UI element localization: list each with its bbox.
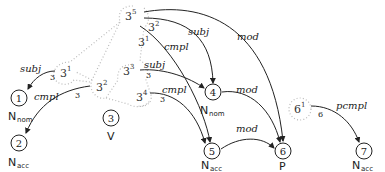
slot-3-5: 3 bbox=[125, 10, 132, 23]
valency-hull bbox=[54, 6, 311, 120]
node-7-case: acc bbox=[361, 165, 373, 172]
node-5-case: acc bbox=[210, 165, 222, 172]
slot-6-1-exp: 1 bbox=[301, 101, 305, 109]
node-7-category: N bbox=[352, 159, 360, 172]
node-4: 4 N nom bbox=[200, 84, 225, 118]
label-cmpl-mid: cmpl bbox=[162, 84, 187, 95]
top-slot-label-1: 3 bbox=[138, 36, 145, 49]
node-4-category: N bbox=[200, 104, 208, 117]
node-4-case: nom bbox=[209, 110, 225, 118]
top-slot-exp-1: 1 bbox=[145, 35, 149, 43]
node-1: 1 N nom bbox=[8, 90, 33, 124]
node-2: 2 N acc bbox=[8, 135, 29, 170]
edge-mod-5-6 bbox=[221, 139, 274, 149]
valency-slots: 3 5 3 1 3 2 3 3 3 4 6 1 bbox=[60, 8, 305, 116]
slot-6-1: 6 bbox=[294, 103, 301, 116]
slot-3-1: 3 bbox=[60, 67, 67, 80]
label-mod-4-6: mod bbox=[236, 84, 258, 95]
slot-3-4: 3 bbox=[136, 91, 143, 104]
slot-3-3-exp: 3 bbox=[130, 63, 134, 71]
edge-mod-top bbox=[144, 10, 283, 141]
node-5: 5 N acc bbox=[201, 143, 222, 172]
slot-3-5-exp: 5 bbox=[132, 8, 136, 16]
node-2-category: N bbox=[8, 156, 16, 169]
slot-3-1-exp: 1 bbox=[67, 65, 71, 73]
top-slot-label-2: 3 bbox=[148, 21, 155, 34]
label-mod-5-6: mod bbox=[236, 123, 258, 134]
node-7: 7 N acc bbox=[352, 143, 373, 172]
num-cmpl-left: 3 bbox=[75, 91, 80, 100]
dependency-diagram: subj 3 cmpl 3 3 2 3 1 subj cmpl mod subj… bbox=[0, 0, 385, 172]
svg-text:5: 5 bbox=[209, 146, 215, 157]
node-1-category: N bbox=[8, 110, 16, 123]
num-subj-left: 3 bbox=[50, 73, 55, 82]
slot-3-4-exp: 4 bbox=[143, 89, 148, 97]
num-cmpl-mid: 3 bbox=[160, 95, 165, 104]
node-2-case: acc bbox=[17, 162, 29, 170]
slot-3-3: 3 bbox=[123, 65, 130, 78]
label-cmpl-top: cmpl bbox=[164, 41, 189, 52]
svg-text:4: 4 bbox=[210, 87, 216, 98]
num-subj-mid: 3 bbox=[146, 71, 151, 80]
node-3: 3 V bbox=[103, 110, 119, 143]
label-pcmpl: pcmpl bbox=[336, 100, 367, 111]
label-subj-left: subj bbox=[20, 63, 41, 74]
svg-text:7: 7 bbox=[361, 146, 367, 157]
node-6-category: P bbox=[279, 160, 286, 172]
svg-text:2: 2 bbox=[16, 138, 22, 149]
node-3-category: V bbox=[107, 130, 115, 143]
slot-3-2: 3 bbox=[96, 81, 103, 94]
edge-mod-4-6 bbox=[222, 92, 280, 142]
svg-text:3: 3 bbox=[108, 113, 114, 124]
top-slot-exp-2: 2 bbox=[155, 20, 159, 28]
slot-3-2-exp: 2 bbox=[103, 79, 107, 87]
node-5-category: N bbox=[201, 159, 209, 172]
label-subj-top: subj bbox=[188, 26, 209, 37]
svg-text:6: 6 bbox=[280, 146, 286, 157]
node-1-case: nom bbox=[17, 116, 33, 124]
node-6: 6 P bbox=[275, 143, 291, 172]
label-subj-mid: subj bbox=[144, 59, 165, 70]
svg-text:1: 1 bbox=[16, 93, 22, 104]
label-cmpl-left: cmpl bbox=[34, 91, 59, 102]
num-pcmpl: 6 bbox=[318, 110, 323, 119]
label-mod-top: mod bbox=[237, 31, 259, 42]
